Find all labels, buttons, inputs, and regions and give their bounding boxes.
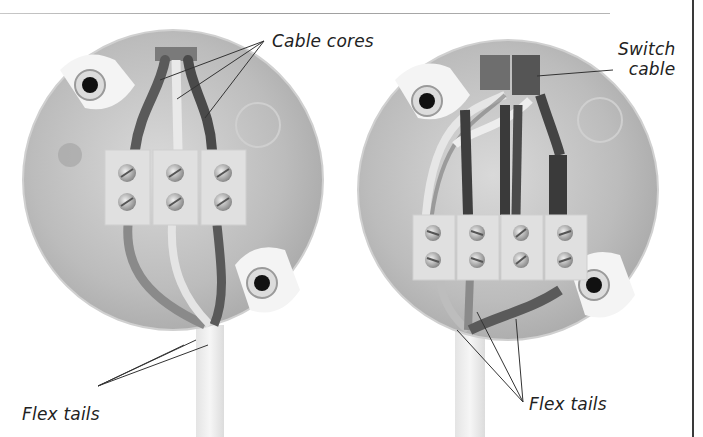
illustration: [0, 0, 703, 437]
label-switch-cable: Switch cable: [618, 39, 675, 79]
wiring-diagram: Cable cores Switch cable Flex tails Flex…: [0, 0, 703, 437]
label-cable-cores: Cable cores: [272, 31, 374, 51]
flex-sheath-left: [196, 325, 224, 437]
flex-sheath-right: [455, 325, 485, 437]
terminal-block-left: [105, 150, 246, 225]
label-flex-tails-left: Flex tails: [22, 404, 100, 424]
right-ceiling-rose: [358, 40, 658, 437]
leader-flex-left-2: [98, 340, 196, 386]
leader-flex-left-3: [98, 345, 208, 386]
left-ceiling-rose: [23, 30, 323, 437]
label-flex-tails-right: Flex tails: [529, 394, 607, 414]
label-switch-cable-line2: cable: [618, 59, 675, 79]
label-switch-cable-line1: Switch: [618, 39, 675, 59]
